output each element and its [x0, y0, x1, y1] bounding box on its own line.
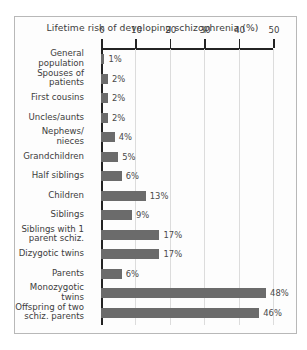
bar [101, 288, 266, 298]
bar-row: Nephews/ nieces4% [101, 129, 273, 149]
x-tick-label: 0 [99, 25, 104, 35]
chart-title: Lifetime risk of developing schizophreni… [15, 22, 290, 33]
x-tick-mark [204, 39, 206, 48]
bar [101, 210, 132, 220]
category-label: Siblings [0, 210, 84, 220]
bar-row: Monozygotic twins48% [101, 285, 273, 305]
bar [101, 132, 115, 142]
bar [101, 113, 108, 123]
bar-row: Spouses of patients2% [101, 71, 273, 91]
chart-frame: Lifetime risk of developing schizophreni… [14, 16, 297, 334]
bar [101, 54, 104, 64]
bar-value-label: 17% [163, 249, 182, 259]
category-label: First cousins [0, 93, 84, 103]
category-label: Dizygotic twins [0, 249, 84, 259]
bar [101, 308, 259, 318]
x-tick-label: 40 [234, 25, 245, 35]
bar-value-label: 6% [126, 171, 139, 181]
bar-row: Parents6% [101, 266, 273, 286]
bar-row: Grandchildren5% [101, 149, 273, 169]
bar-value-label: 46% [263, 308, 282, 318]
bar-value-label: 6% [126, 269, 139, 279]
x-tick-label: 20 [165, 25, 176, 35]
x-tick-mark [170, 39, 172, 48]
bar [101, 93, 108, 103]
category-label: Siblings with 1 parent schiz. [0, 225, 84, 244]
bar-value-label: 48% [270, 288, 289, 298]
bar-value-label: 17% [163, 230, 182, 240]
x-tick-mark [239, 39, 241, 48]
category-label: Spouses of patients [0, 69, 84, 88]
category-label: Uncles/aunts [0, 113, 84, 123]
bar [101, 269, 122, 279]
x-tick-mark [273, 39, 275, 48]
bar-row: First cousins2% [101, 90, 273, 110]
bar-value-label: 2% [112, 93, 125, 103]
category-label: Grandchildren [0, 152, 84, 162]
bar [101, 74, 108, 84]
bar-row: Siblings with 1 parent schiz.17% [101, 227, 273, 247]
bar-value-label: 4% [119, 132, 132, 142]
bar-row: Siblings9% [101, 207, 273, 227]
category-label: General population [0, 49, 84, 68]
bar-row: Children13% [101, 188, 273, 208]
category-label: Nephews/ nieces [0, 127, 84, 146]
category-label: Offspring of two schiz. parents [0, 303, 84, 322]
x-tick-label: 50 [269, 25, 280, 35]
bar-value-label: 5% [122, 152, 135, 162]
x-tick-mark [101, 39, 103, 48]
bar-row: Uncles/aunts2% [101, 110, 273, 130]
category-label: Monozygotic twins [0, 283, 84, 302]
bar-row: Dizygotic twins17% [101, 246, 273, 266]
bar [101, 171, 122, 181]
bar-value-label: 1% [108, 54, 121, 64]
bar-row: General population1% [101, 51, 273, 71]
bar [101, 152, 118, 162]
category-label: Children [0, 191, 84, 201]
bar-row: Half siblings6% [101, 168, 273, 188]
bar-value-label: 2% [112, 113, 125, 123]
x-tick-label: 30 [200, 25, 211, 35]
bar [101, 249, 159, 259]
bar-row: Offspring of two schiz. parents46% [101, 305, 273, 325]
gridline [273, 49, 274, 325]
bar-value-label: 2% [112, 74, 125, 84]
bar [101, 230, 159, 240]
bar-value-label: 13% [150, 191, 169, 201]
bar-value-label: 9% [136, 210, 149, 220]
bar [101, 191, 146, 201]
category-label: Half siblings [0, 171, 84, 181]
x-tick-mark [135, 39, 137, 48]
plot-area: General population1%Spouses of patients2… [101, 49, 273, 325]
category-label: Parents [0, 269, 84, 279]
x-tick-label: 10 [131, 25, 142, 35]
